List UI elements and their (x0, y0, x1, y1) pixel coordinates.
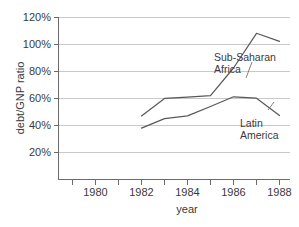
y-axis-title: debt/GNP ratio (14, 62, 26, 135)
y-tick-label-60: 60% (29, 92, 51, 104)
y-tick-label-40: 40% (29, 119, 51, 131)
x-axis-title: year (176, 203, 198, 215)
x-tick-label-1982: 1982 (129, 186, 153, 198)
y-tick-label-120: 120% (23, 11, 51, 23)
debt-gnp-ratio-line-chart: 120% 100% 80% 60% 40% 20% 1980 1982 1984… (0, 0, 299, 227)
series-label-latam-line1: Latin (240, 117, 263, 129)
x-tick-label-1984: 1984 (175, 186, 199, 198)
y-tick-label-80: 80% (29, 65, 51, 77)
series-label-latam-line2: America (240, 129, 279, 141)
y-tick-label-100: 100% (23, 38, 51, 50)
x-tick-label-1988: 1988 (267, 186, 291, 198)
series-label-africa-line2: Africa (214, 63, 241, 75)
x-tick-label-1986: 1986 (221, 186, 245, 198)
series-label-africa-line1: Sub-Saharan (214, 51, 276, 63)
x-tick-label-1980: 1980 (83, 186, 107, 198)
chart-container: 120% 100% 80% 60% 40% 20% 1980 1982 1984… (0, 0, 299, 227)
y-tick-label-20: 20% (29, 146, 51, 158)
